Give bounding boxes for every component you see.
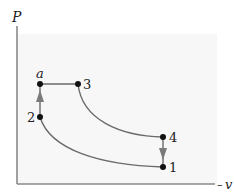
point-label-1: 1 <box>169 160 177 175</box>
point-3 <box>75 81 81 87</box>
y-axis-label: P <box>11 9 22 25</box>
point-label-a: a <box>36 66 44 81</box>
point-1 <box>160 164 166 170</box>
point-a <box>37 81 43 87</box>
pv-diagram: P – v 1 2 a 3 4 <box>0 0 234 196</box>
point-4 <box>160 134 166 140</box>
point-label-2: 2 <box>27 110 35 125</box>
x-axis-label: v <box>225 177 233 192</box>
point-label-4: 4 <box>169 130 177 145</box>
x-axis-label-dash: – <box>217 178 223 191</box>
point-label-3: 3 <box>83 77 91 92</box>
plot-area <box>17 34 217 184</box>
point-2 <box>37 114 43 120</box>
